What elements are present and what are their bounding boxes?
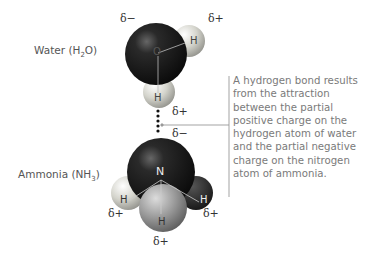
hydrogen-bond-dots <box>156 109 159 132</box>
water-oxygen-charge: δ− <box>120 12 136 25</box>
ammonia-nitrogen-letter: N <box>156 165 164 178</box>
ammonia-h-bottom-charge: δ+ <box>153 235 169 248</box>
ammonia-hbottom-letter: H <box>158 216 166 227</box>
ammonia-h-right-charge: δ+ <box>203 207 219 220</box>
ammonia-nitrogen-charge: δ− <box>172 127 188 140</box>
water-label: Water (H2O) <box>34 44 97 59</box>
ammonia-h-left-charge: δ+ <box>108 207 124 220</box>
ammonia-label: Ammonia (NH3) <box>18 168 100 183</box>
ammonia-hleft-letter: H <box>120 194 128 205</box>
hydrogen-bond-caption: A hydrogen bond results from the attract… <box>233 74 375 180</box>
water-h1-letter: H <box>190 35 198 46</box>
water-oxygen-letter: O <box>153 46 161 57</box>
ammonia-hright-letter: H <box>200 194 208 205</box>
ammonia-label-text: Ammonia (NH <box>18 168 91 180</box>
ammonia-label-end: ) <box>96 168 100 180</box>
water-label-text: Water (H <box>34 44 80 56</box>
water-label-end: O) <box>85 44 97 56</box>
water-h-right-charge: δ+ <box>208 12 224 25</box>
water-h2-letter: H <box>154 92 162 103</box>
water-h-bottom-charge: δ+ <box>172 105 188 118</box>
